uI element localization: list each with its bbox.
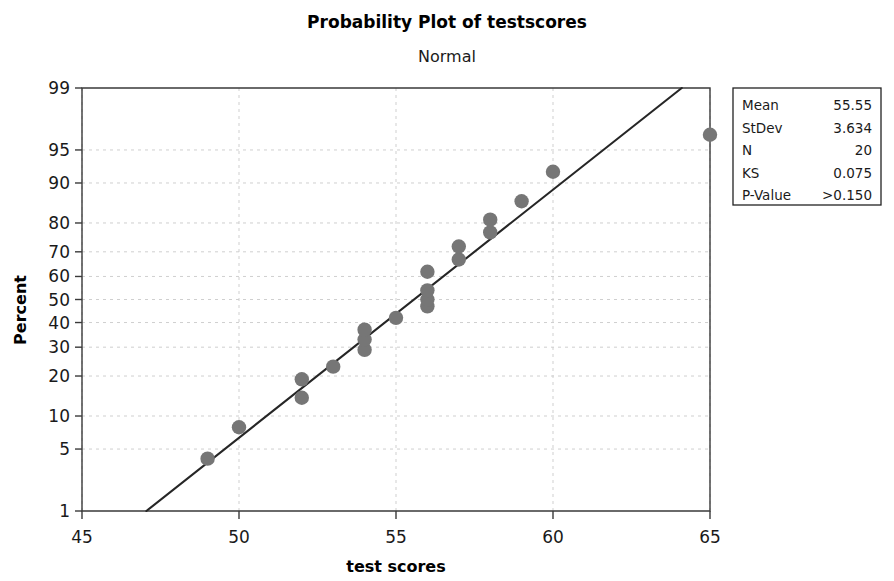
y-tick-label: 50 — [48, 290, 70, 310]
data-point — [389, 311, 403, 325]
data-point — [546, 165, 560, 179]
x-tick-label: 45 — [71, 527, 93, 547]
data-point — [514, 194, 528, 208]
statistic-value: 20 — [855, 142, 872, 158]
data-point — [200, 451, 214, 465]
data-point — [295, 391, 309, 405]
y-tick-label: 99 — [48, 78, 70, 98]
statistic-label: Mean — [742, 97, 779, 113]
y-tick-label: 70 — [48, 242, 70, 262]
data-point — [703, 128, 717, 142]
data-point — [420, 265, 434, 279]
plot-background — [0, 0, 894, 581]
probability-plot: Probability Plot of testscores Normal 15… — [0, 0, 894, 581]
data-point — [232, 420, 246, 434]
data-point — [483, 212, 497, 226]
data-point — [452, 239, 466, 253]
y-tick-label: 95 — [48, 140, 70, 160]
y-axis-title: Percent — [11, 275, 30, 345]
x-tick-label: 55 — [385, 527, 407, 547]
y-tick-label: 1 — [59, 501, 70, 521]
statistic-label: P-Value — [742, 187, 791, 203]
data-point — [483, 225, 497, 239]
statistic-value: >0.150 — [822, 187, 872, 203]
x-tick-label: 50 — [228, 527, 250, 547]
page-title: Probability Plot of testscores — [307, 12, 587, 32]
statistics-box: Mean55.55StDev3.634N20KS0.075P-Value>0.1… — [733, 88, 881, 205]
statistic-label: N — [742, 142, 752, 158]
y-tick-label: 60 — [48, 266, 70, 286]
data-point — [326, 359, 340, 373]
data-point — [295, 372, 309, 386]
y-tick-label: 5 — [59, 439, 70, 459]
y-tick-label: 40 — [48, 313, 70, 333]
data-point — [357, 322, 371, 336]
chart-subtitle: Normal — [418, 47, 476, 66]
statistic-label: StDev — [742, 120, 783, 136]
statistic-value: 55.55 — [833, 97, 872, 113]
x-tick-label: 60 — [542, 527, 564, 547]
statistic-label: KS — [742, 165, 759, 181]
x-axis-title: test scores — [346, 557, 446, 576]
statistic-value: 3.634 — [833, 120, 872, 136]
y-tick-label: 20 — [48, 366, 70, 386]
y-tick-label: 80 — [48, 213, 70, 233]
data-point — [452, 252, 466, 266]
x-tick-label: 65 — [699, 527, 721, 547]
y-tick-label: 30 — [48, 337, 70, 357]
statistic-value: 0.075 — [833, 165, 872, 181]
data-point — [420, 283, 434, 297]
y-tick-label: 90 — [48, 173, 70, 193]
y-tick-label: 10 — [48, 406, 70, 426]
